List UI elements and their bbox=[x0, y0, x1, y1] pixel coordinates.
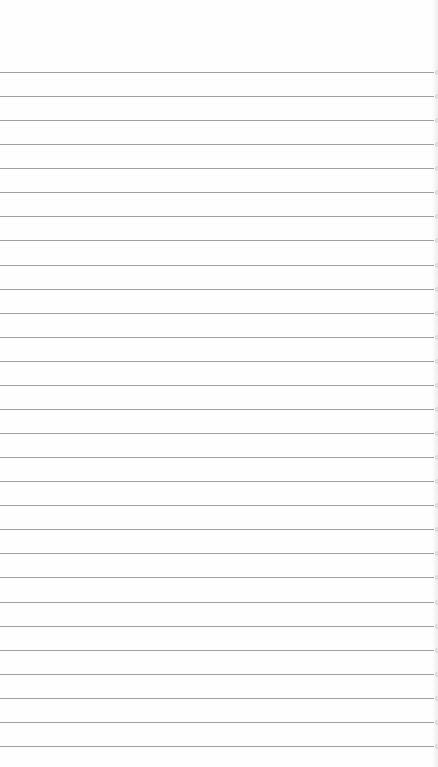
ruled-line bbox=[0, 168, 434, 169]
ruled-line bbox=[0, 120, 434, 121]
ruled-line bbox=[0, 722, 434, 723]
ruled-line bbox=[0, 674, 434, 675]
ruled-line bbox=[0, 216, 434, 217]
lined-paper bbox=[0, 0, 438, 767]
ruled-line bbox=[0, 72, 434, 73]
ruled-line bbox=[0, 409, 434, 410]
ruled-line bbox=[0, 481, 434, 482]
ruled-line bbox=[0, 602, 434, 603]
ruled-line bbox=[0, 457, 434, 458]
ruled-line bbox=[0, 698, 434, 699]
ruled-line bbox=[0, 265, 434, 266]
ruled-line bbox=[0, 433, 434, 434]
ruled-line bbox=[0, 337, 434, 338]
ruled-line bbox=[0, 553, 434, 554]
ruled-line bbox=[0, 577, 434, 578]
ruled-line bbox=[0, 385, 434, 386]
ruled-line bbox=[0, 626, 434, 627]
ruled-line bbox=[0, 746, 434, 747]
ruled-line bbox=[0, 505, 434, 506]
ruled-line bbox=[0, 240, 434, 241]
ruled-line bbox=[0, 650, 434, 651]
ruled-line bbox=[0, 313, 434, 314]
ruled-line bbox=[0, 144, 434, 145]
ruled-line bbox=[0, 361, 434, 362]
ruled-line bbox=[0, 96, 434, 97]
ruled-line bbox=[0, 529, 434, 530]
ruled-line bbox=[0, 289, 434, 290]
ruled-line bbox=[0, 192, 434, 193]
